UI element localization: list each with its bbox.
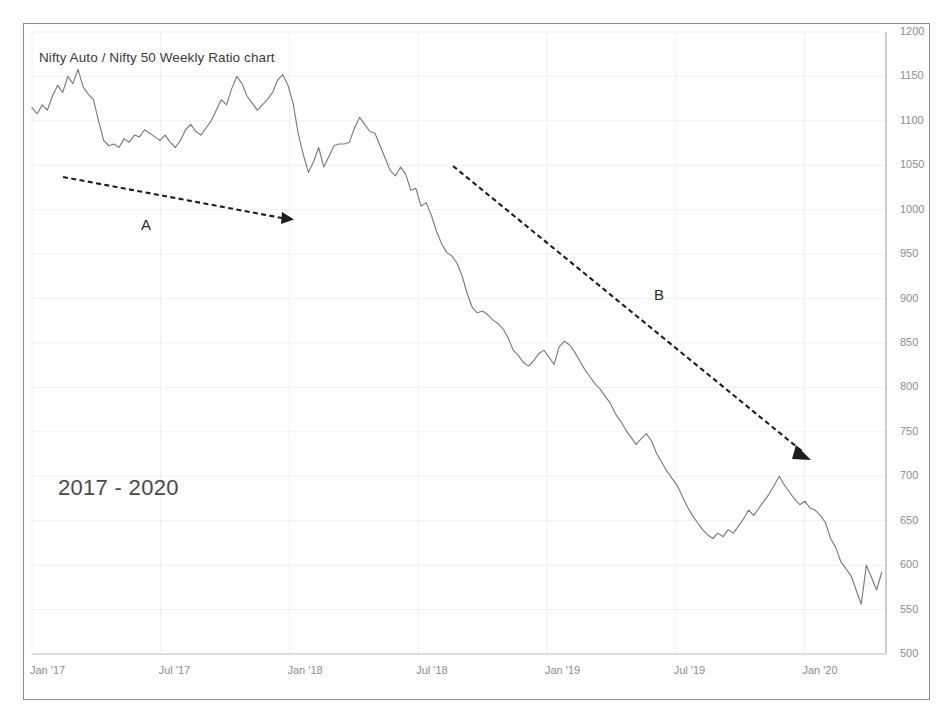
- y-tick-label: 550: [900, 603, 918, 615]
- x-tick-label: Jan '19: [545, 664, 580, 676]
- x-tick-label: Jan '18: [287, 664, 322, 676]
- annotation-label-a: A: [141, 216, 151, 233]
- period-label: 2017 - 2020: [58, 475, 179, 501]
- horizontal-gridlines: [32, 32, 886, 654]
- y-tick-label: 1150: [900, 69, 924, 81]
- y-tick-label: 950: [900, 247, 918, 259]
- x-tick-label: Jan '20: [802, 664, 837, 676]
- y-tick-label: 1200: [900, 25, 924, 37]
- y-tick-label: 1100: [900, 114, 924, 126]
- y-tick-label: 600: [900, 558, 918, 570]
- y-tick-label: 1000: [900, 203, 924, 215]
- x-tick-label: Jul '18: [416, 664, 447, 676]
- y-tick-label: 900: [900, 292, 918, 304]
- y-tick-label: 800: [900, 380, 918, 392]
- x-tick-label: Jan '17: [30, 664, 65, 676]
- chart-title: Nifty Auto / Nifty 50 Weekly Ratio chart: [39, 50, 275, 65]
- ratio-line-chart: [24, 24, 929, 699]
- y-tick-label: 1050: [900, 158, 924, 170]
- y-tick-label: 750: [900, 425, 918, 437]
- chart-frame: Nifty Auto / Nifty 50 Weekly Ratio chart…: [23, 23, 930, 700]
- price-line: [32, 69, 882, 604]
- y-tick-label: 500: [900, 647, 918, 659]
- annotation-arrow-a: [63, 177, 294, 224]
- x-tick-label: Jul '17: [159, 664, 190, 676]
- y-tick-label: 700: [900, 469, 918, 481]
- x-tick-label: Jul '19: [674, 664, 705, 676]
- y-tick-label: 850: [900, 336, 918, 348]
- y-tick-label: 650: [900, 514, 918, 526]
- annotation-label-b: B: [654, 286, 664, 303]
